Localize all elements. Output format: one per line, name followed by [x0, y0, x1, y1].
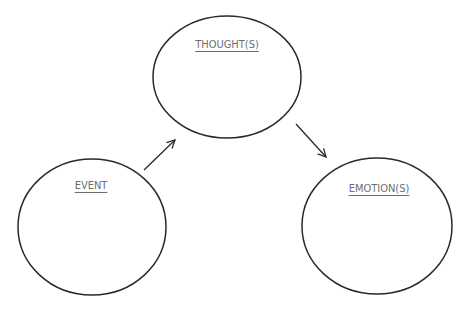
thoughts-circle [153, 16, 301, 138]
thoughts-label: THOUGHT(S) [195, 38, 259, 51]
arrow-thoughts-to-emotions [296, 124, 326, 157]
emotions-label: EMOTION(S) [349, 182, 410, 195]
emotions-circle [302, 158, 452, 294]
arrow-event-to-thoughts [144, 140, 175, 170]
event-label: EVENT [75, 179, 108, 192]
